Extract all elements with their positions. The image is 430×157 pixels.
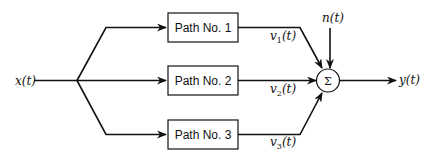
- multipath-channel-diagram: Path No. 1 Path No. 2 Path No. 3 Σ x(t) …: [0, 0, 430, 157]
- v1-label: v1(t): [270, 29, 296, 45]
- summer-symbol: Σ: [324, 75, 332, 88]
- v3-arrow: [238, 93, 322, 135]
- path-2-label: Path No. 2: [175, 74, 232, 88]
- path-1-label: Path No. 1: [175, 21, 232, 35]
- v1-arrow: [238, 28, 322, 69]
- v2-label: v2(t): [270, 82, 296, 98]
- svg-text:v2(t): v2(t): [270, 82, 296, 98]
- diagram-canvas: Path No. 1 Path No. 2 Path No. 3 Σ x(t) …: [0, 0, 430, 157]
- branch-1-arrow: [77, 28, 166, 81]
- output-label: y(t): [398, 73, 420, 87]
- svg-text:v3(t): v3(t): [270, 135, 296, 151]
- noise-label: n(t): [322, 11, 344, 25]
- svg-text:v1(t): v1(t): [270, 29, 296, 45]
- v3-label: v3(t): [270, 135, 296, 151]
- path-3-label: Path No. 3: [175, 128, 232, 142]
- branch-3-arrow: [77, 81, 166, 135]
- input-label: x(t): [15, 74, 36, 88]
